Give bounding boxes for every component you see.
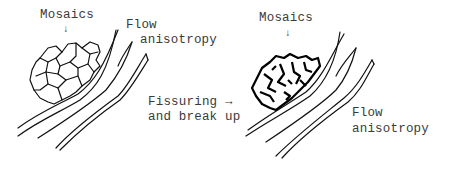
right-flow-label: Flow <box>352 106 383 121</box>
left-mosaics-arrow: ↓ <box>63 22 69 37</box>
right-mosaic-cluster <box>252 54 320 110</box>
right-mosaics-label: Mosaics <box>259 11 313 26</box>
left-flow-label: Flow <box>126 18 157 33</box>
left-anisotropy-label: anisotropy <box>140 33 217 48</box>
right-anisotropy-label: anisotropy <box>352 122 429 137</box>
fissuring-label: Fissuring → <box>148 95 233 110</box>
right-mosaics-arrow: ↓ <box>285 26 291 41</box>
break-up-label: and break up <box>148 110 240 125</box>
left-mosaics-label: Mosaics <box>40 8 94 23</box>
left-mosaic-cluster <box>30 42 100 104</box>
